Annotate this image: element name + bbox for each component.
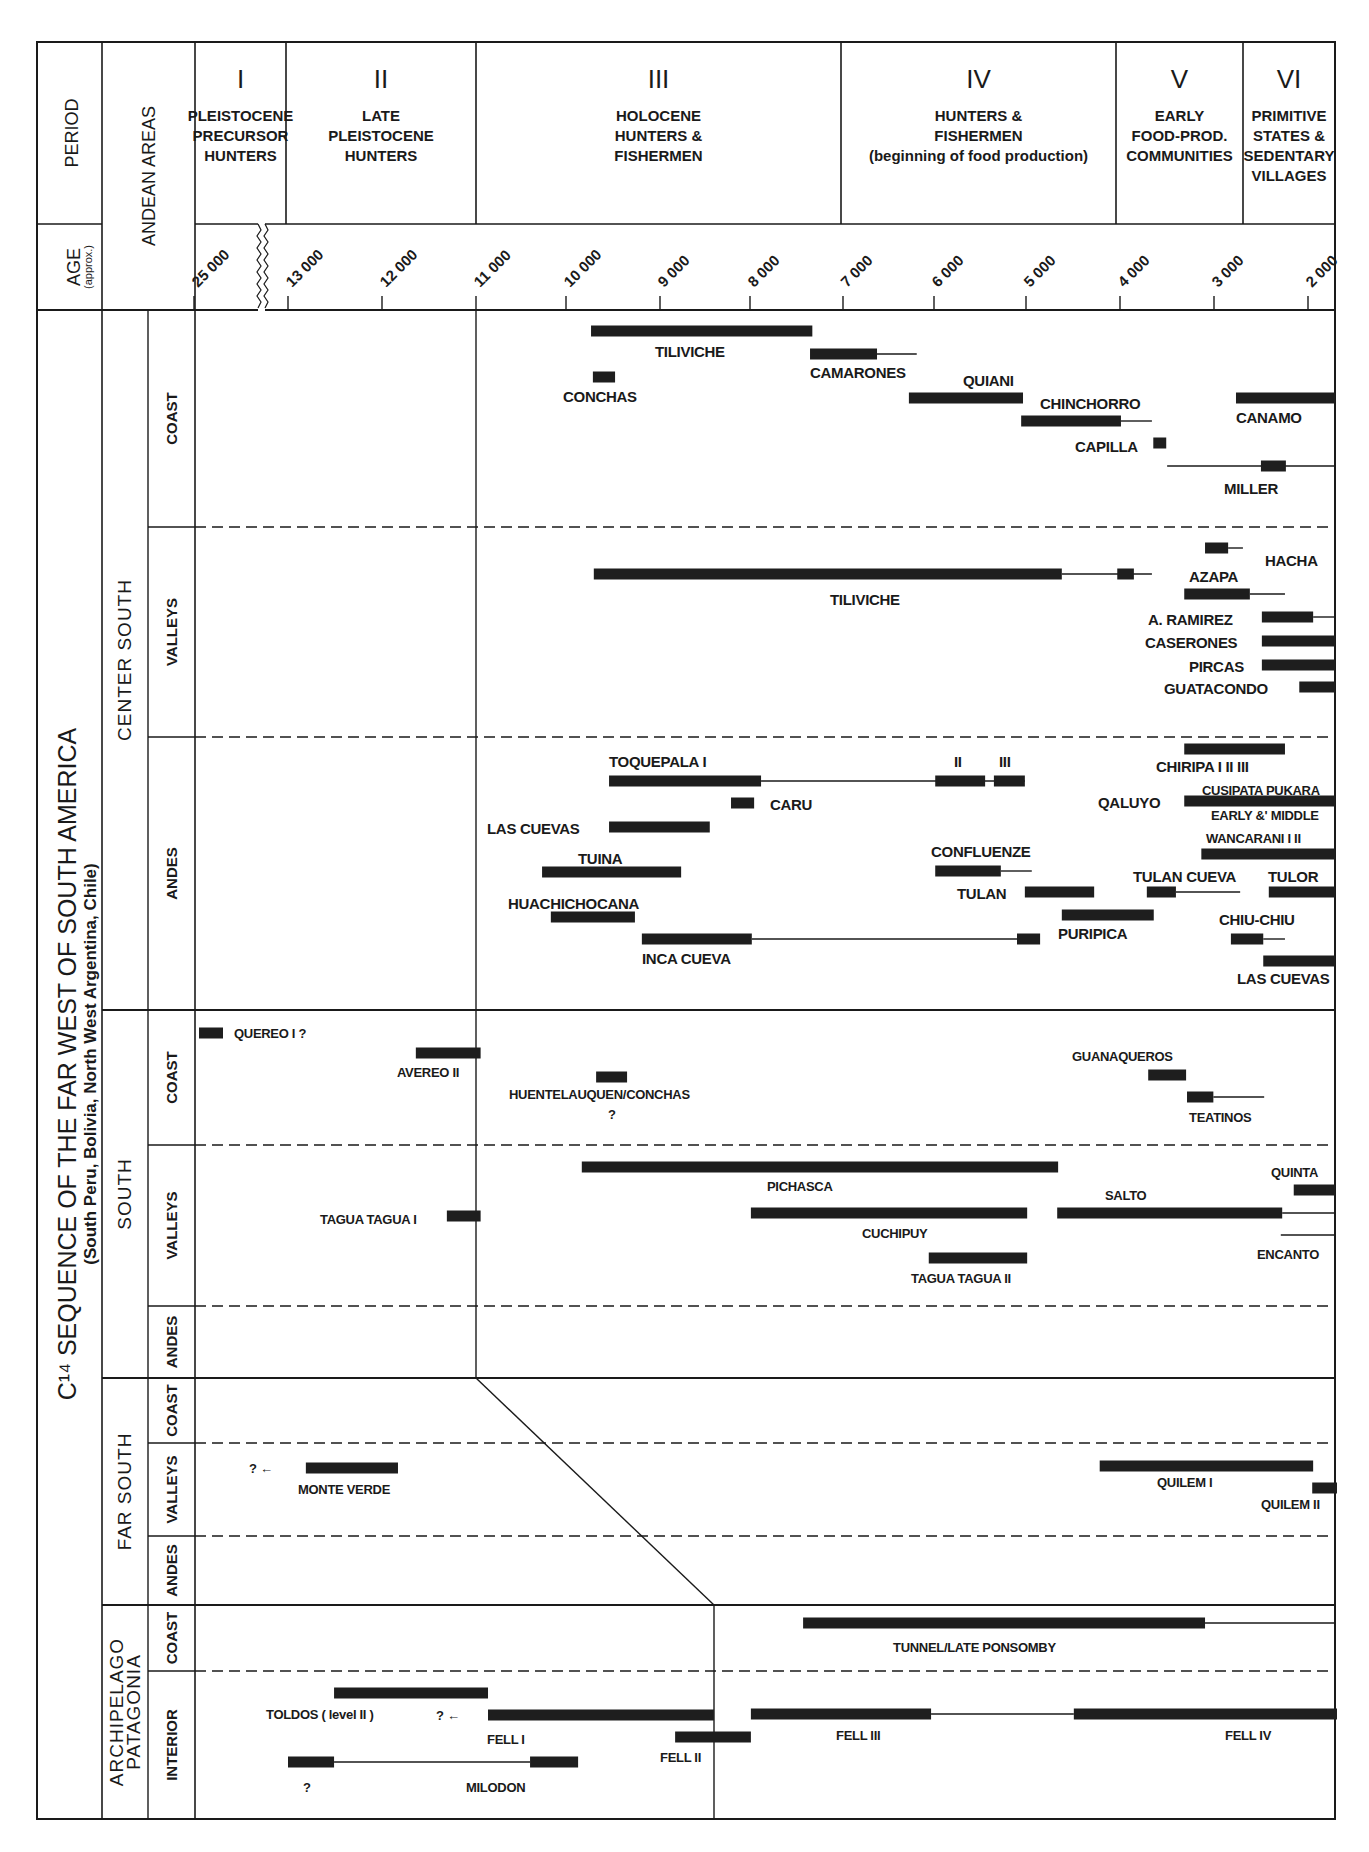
site-label: MONTE VERDE — [298, 1482, 391, 1497]
site-quilem-ii: QUILEM II — [1261, 1483, 1337, 1513]
area-far-south: FAR SOUTHCOASTVALLEYSANDES — [102, 1378, 1335, 1597]
site-pircas: PIRCAS — [1189, 658, 1335, 675]
site-label: LAS CUEVAS — [487, 820, 580, 837]
tick-label: 3 000 — [1208, 252, 1247, 291]
site-quilem-i: QUILEM I — [1100, 1461, 1313, 1491]
range-bar — [1262, 612, 1313, 623]
period-description: FISHERMEN — [614, 147, 702, 164]
site-label: CHIU-CHIU — [1219, 911, 1295, 928]
subarea-label: VALLEYS — [163, 1191, 180, 1259]
period-description: HUNTERS & — [935, 107, 1023, 124]
site-milodon: MILODON? — [288, 1757, 578, 1796]
tick-label: 9 000 — [654, 252, 693, 291]
period-description: LATE — [362, 107, 400, 124]
site-huentelauquen-conchas: HUENTELAUQUEN/CONCHAS? — [509, 1072, 690, 1123]
subarea-label: ANDES — [163, 847, 180, 900]
range-bar — [1201, 849, 1335, 860]
site-bars: TILIVICHECAMARONESCONCHASQUIANICHINCHORR… — [199, 326, 1337, 1796]
site-confluenze: CONFLUENZE — [931, 843, 1032, 877]
range-bar — [306, 1463, 398, 1474]
site-label: CASERONES — [1145, 634, 1238, 651]
range-bar — [1269, 887, 1336, 898]
site-label: HUENTELAUQUEN/CONCHAS — [509, 1087, 690, 1102]
site-label: QALUYO — [1098, 794, 1161, 811]
tick-label: 8 000 — [744, 252, 783, 291]
age-sublabel: (approx.) — [82, 245, 94, 289]
period-description: STATES & — [1253, 127, 1325, 144]
range-bar — [1184, 589, 1250, 600]
site-label: ENCANTO — [1257, 1247, 1319, 1262]
site-tuina: TUINA — [542, 850, 681, 878]
site-label: MILODON — [466, 1780, 525, 1795]
site-sublabel: III — [999, 753, 1011, 770]
range-bar — [1236, 393, 1335, 404]
range-bar — [288, 1757, 334, 1768]
andean-areas-label: ANDEAN AREAS — [139, 106, 159, 246]
period-label: PERIOD — [62, 98, 82, 167]
site-label: CONFLUENZE — [931, 843, 1031, 860]
site-conchas: CONCHAS — [563, 372, 637, 406]
site-label: TOQUEPALA I — [609, 753, 706, 770]
site-label: QUILEM II — [1261, 1497, 1320, 1512]
site-label: FELL IV — [1225, 1728, 1272, 1743]
period-description: HUNTERS & — [615, 127, 703, 144]
period-header-I: IPLEISTOCENEPRECURSORHUNTERS — [188, 64, 294, 164]
site-encanto: ENCANTO — [1257, 1235, 1335, 1262]
site-tagua-tagua-ii: TAGUA TAGUA II — [911, 1253, 1027, 1287]
range-bar — [642, 934, 752, 945]
site-capilla: CAPILLA — [1075, 438, 1166, 456]
tick-label: 6 000 — [928, 252, 967, 291]
site-tagua-tagua-i: TAGUA TAGUA I — [320, 1211, 481, 1228]
site-quiani: QUIANI — [909, 372, 1023, 404]
range-bar — [675, 1732, 751, 1743]
site-label: PURIPICA — [1058, 925, 1128, 942]
site-guatacondo: GUATACONDO — [1164, 680, 1335, 697]
site-tiliviche: TILIVICHE — [591, 326, 812, 361]
period-boundaries — [476, 310, 714, 1819]
site-label: QUINTA — [1271, 1165, 1319, 1180]
subarea-label: VALLEYS — [163, 1455, 180, 1523]
site-fell-iv: FELL IV — [1074, 1709, 1337, 1744]
range-bar — [1147, 887, 1176, 898]
site-toquepala-i: TOQUEPALA IIIIII — [609, 753, 1025, 787]
site-label: EARLY &' MIDDLE — [1211, 808, 1319, 823]
range-bar — [1100, 1461, 1313, 1472]
period-header-V: VEARLYFOOD-PROD.COMMUNITIES — [1116, 42, 1233, 224]
site-label: MILLER — [1224, 480, 1278, 497]
range-bar — [1187, 1092, 1213, 1103]
arrow-left-icon: ? ← — [249, 1461, 273, 1476]
site-sublabel: ? — [608, 1107, 616, 1122]
tick-label: 12 000 — [376, 246, 420, 290]
region-label: PATAGONIA — [123, 1654, 144, 1770]
period-description: PRIMITIVE — [1251, 107, 1326, 124]
range-bar — [609, 822, 710, 833]
range-bar — [994, 776, 1025, 787]
range-bar — [530, 1757, 578, 1768]
site-fell-i: ? ←FELL I — [436, 1708, 714, 1747]
tick-label: 13 000 — [282, 246, 326, 290]
range-bar — [1294, 1185, 1336, 1196]
arrow-left-icon: ? ← — [436, 1708, 460, 1723]
range-bar — [1299, 682, 1335, 693]
range-bar — [596, 1072, 627, 1083]
site-label: CHIRIPA I II III — [1156, 758, 1249, 775]
site-label: QUEREO I ? — [234, 1026, 306, 1041]
site-puripica: PURIPICA — [1058, 910, 1154, 943]
region-label: CENTER SOUTH — [114, 579, 135, 741]
range-bar — [751, 1208, 1027, 1219]
range-bar — [1074, 1709, 1337, 1720]
site-label: TILIVICHE — [830, 591, 900, 608]
site-label: HACHA — [1265, 552, 1318, 569]
range-bar — [1148, 1070, 1186, 1081]
chart-title: C¹⁴ SEQUENCE OF THE FAR WEST OF SOUTH AM… — [53, 727, 81, 1400]
range-bar — [593, 372, 615, 383]
site-fell-ii: FELL II — [660, 1732, 751, 1766]
subarea-label: INTERIOR — [163, 1709, 180, 1781]
period-description: (beginning of food production) — [869, 147, 1088, 164]
range-bar — [1117, 569, 1134, 580]
range-bar — [1312, 1483, 1337, 1494]
range-bar — [751, 1709, 931, 1720]
site-guanaqueros: GUANAQUEROS — [1072, 1049, 1186, 1081]
site-label: GUANAQUEROS — [1072, 1049, 1173, 1064]
site-label: PICHASCA — [767, 1179, 833, 1194]
